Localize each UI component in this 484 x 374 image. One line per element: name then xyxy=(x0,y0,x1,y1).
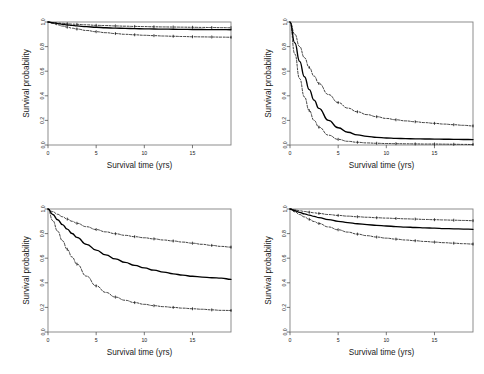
y-tick-label: 0.0 xyxy=(282,328,288,335)
x-tick-label: 0 xyxy=(289,337,292,343)
y-tick-label: 1.0 xyxy=(40,205,46,212)
x-tick-label: 10 xyxy=(383,150,389,156)
y-tick-label: 1.0 xyxy=(40,18,46,25)
x-axis-label: Survival time (yrs) xyxy=(107,348,173,357)
x-axis-label: Survival time (yrs) xyxy=(349,348,415,357)
x-tick-label: 15 xyxy=(432,150,438,156)
y-axis-label: Survival probability xyxy=(22,235,31,305)
x-tick-label: 10 xyxy=(141,150,147,156)
y-axis-label: Survival probability xyxy=(264,48,273,118)
y-tick-label: 0.8 xyxy=(282,230,288,237)
plot-area: 0.00.20.40.60.81.0051015Survival time (y… xyxy=(0,0,242,187)
x-axis-label: Survival time (yrs) xyxy=(107,161,173,170)
panel-top-right: 0.00.20.40.60.81.0051015Survival time (y… xyxy=(242,0,484,187)
y-tick-label: 0.2 xyxy=(40,304,46,311)
y-tick-label: 0.2 xyxy=(282,304,288,311)
x-tick-label: 15 xyxy=(190,337,196,343)
x-tick-label: 0 xyxy=(47,150,50,156)
panel-top-left: 0.00.20.40.60.81.0051015Survival time (y… xyxy=(0,0,242,187)
y-tick-label: 1.0 xyxy=(282,205,288,212)
y-tick-label: 0.8 xyxy=(282,43,288,50)
survival-curve-figure: 0.00.20.40.60.81.0051015Survival time (y… xyxy=(0,0,484,374)
x-tick-label: 5 xyxy=(337,150,340,156)
x-tick-label: 15 xyxy=(190,150,196,156)
panel-bottom-right: 0.00.20.40.60.81.0051015Survival time (y… xyxy=(242,187,484,374)
x-axis-label: Survival time (yrs) xyxy=(349,161,415,170)
x-tick-label: 0 xyxy=(47,337,50,343)
x-tick-label: 0 xyxy=(289,150,292,156)
y-tick-label: 0.0 xyxy=(40,141,46,148)
y-tick-label: 0.0 xyxy=(282,141,288,148)
y-axis-label: Survival probability xyxy=(22,48,31,118)
y-tick-label: 0.6 xyxy=(40,254,46,261)
y-tick-label: 0.6 xyxy=(282,67,288,74)
x-tick-label: 10 xyxy=(383,337,389,343)
y-tick-label: 0.4 xyxy=(40,279,46,286)
y-tick-label: 0.4 xyxy=(282,92,288,99)
plot-area: 0.00.20.40.60.81.0051015Survival time (y… xyxy=(242,187,484,374)
y-tick-label: 0.2 xyxy=(282,117,288,124)
y-tick-label: 0.4 xyxy=(40,92,46,99)
plot-area: 0.00.20.40.60.81.0051015Survival time (y… xyxy=(242,0,484,187)
y-axis-label: Survival probability xyxy=(264,235,273,305)
x-tick-label: 5 xyxy=(337,337,340,343)
y-tick-label: 0.6 xyxy=(282,254,288,261)
y-tick-label: 0.8 xyxy=(40,43,46,50)
y-tick-label: 0.8 xyxy=(40,230,46,237)
y-tick-label: 0.2 xyxy=(40,117,46,124)
y-tick-label: 1.0 xyxy=(282,18,288,25)
x-tick-label: 5 xyxy=(95,337,98,343)
y-tick-label: 0.6 xyxy=(40,67,46,74)
x-tick-label: 10 xyxy=(141,337,147,343)
y-tick-label: 0.4 xyxy=(282,279,288,286)
y-tick-label: 0.0 xyxy=(40,328,46,335)
panel-bottom-left: 0.00.20.40.60.81.0051015Survival time (y… xyxy=(0,187,242,374)
plot-area: 0.00.20.40.60.81.0051015Survival time (y… xyxy=(0,187,242,374)
x-tick-label: 5 xyxy=(95,150,98,156)
x-tick-label: 15 xyxy=(432,337,438,343)
